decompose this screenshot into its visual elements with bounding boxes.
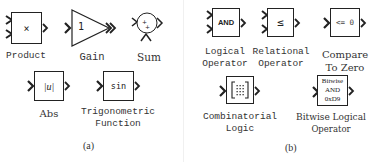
bitwise-glyph-line3: 0xD9: [325, 95, 341, 104]
trig-label-line2: Function: [78, 118, 158, 130]
abs-label: Abs: [30, 108, 68, 120]
bitwise-label-line2: Operator: [290, 123, 369, 135]
abs-glyph: |u|: [44, 82, 55, 91]
relational-block-body[interactable]: ≤: [267, 8, 294, 37]
combinatorial-output-port-icon: [254, 86, 262, 96]
product-label: Product: [2, 50, 50, 62]
product-output-port-icon: [42, 23, 50, 33]
compare-label-line2: To Zero: [320, 62, 369, 74]
gain-label: Gain: [70, 51, 114, 63]
logical-block-body[interactable]: AND: [212, 8, 240, 37]
svg-text:+: +: [145, 23, 150, 30]
compare-output-port-icon: [360, 18, 368, 28]
truth-table-icon: [231, 81, 249, 99]
product-glyph: ×: [23, 24, 29, 33]
relational-label-line1: Relational: [251, 46, 311, 58]
panel-b-caption: (b): [285, 142, 297, 153]
compare-label-line1: Compare: [320, 49, 369, 61]
bitwise-glyph-line2: AND: [325, 86, 340, 95]
trig-label-line1: Trigonometric: [78, 106, 158, 118]
combinatorial-label-line1: Combinatorial: [200, 111, 280, 123]
trig-output-port-icon: [134, 81, 142, 91]
sum-circle-icon[interactable]: + +: [131, 10, 167, 44]
abs-output-port-icon: [64, 81, 72, 91]
compare-block-body[interactable]: <= 0: [330, 8, 360, 37]
gain-glyph: 1: [78, 22, 84, 31]
logical-glyph: AND: [218, 18, 234, 27]
combinatorial-label-line2: Logic: [200, 123, 280, 135]
bitwise-label-line1: Bitwise Logical: [290, 111, 369, 123]
bitwise-output-port-icon: [348, 86, 356, 96]
relational-output-port-icon: [294, 18, 302, 28]
bitwise-block-body[interactable]: Bitwise AND 0xD9: [317, 75, 348, 106]
logical-label-line1: Logical: [200, 46, 250, 58]
panel-a-caption: (a): [83, 140, 94, 151]
abs-block-body[interactable]: |u|: [34, 71, 64, 101]
product-block-body[interactable]: ×: [11, 12, 42, 44]
trig-glyph: sin: [111, 82, 126, 91]
combinatorial-block-body[interactable]: [226, 76, 254, 104]
panel-divider: [183, 0, 184, 162]
logical-label-line2: Operator: [200, 58, 250, 70]
trig-block-body[interactable]: sin: [103, 71, 134, 101]
bitwise-glyph-line1: Bitwise: [322, 77, 343, 86]
relational-label-line2: Operator: [251, 58, 311, 70]
sum-label: Sum: [132, 51, 166, 63]
compare-glyph: <= 0: [336, 18, 354, 27]
logical-output-port-icon: [240, 18, 248, 28]
relational-glyph: ≤: [277, 18, 284, 27]
gain-output-port-icon: [105, 22, 117, 34]
